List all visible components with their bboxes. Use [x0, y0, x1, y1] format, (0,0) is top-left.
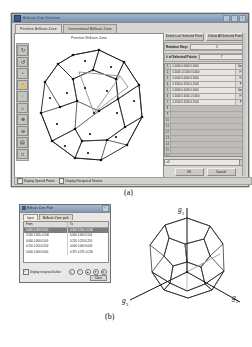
- close-button[interactable]: Close: [90, 275, 107, 282]
- point-group-value: all: [165, 160, 239, 164]
- num-selected-points-label: # of Selected Points:: [166, 55, 197, 59]
- table-row[interactable]: 16: [165, 154, 245, 157]
- add-row-icon[interactable]: +: [69, 269, 76, 276]
- reciprocal-lattice-polyhedron: [128, 196, 246, 321]
- rotation-step-field: Rotation Step: 5: [164, 42, 246, 51]
- brillouin-zone-polyhedron: [27, 41, 162, 175]
- dialog-title-bar: Brillouin Zone Path ×: [20, 205, 110, 213]
- maximize-button[interactable]: □: [231, 15, 238, 22]
- delete-button-row: Delete Last Selected Point Delete All Se…: [164, 33, 246, 41]
- row-index: 16: [165, 154, 171, 157]
- row-index: 8: [165, 106, 171, 111]
- selected-points-table[interactable]: 10.0000 0.0000 0.0000Gam 20.5000 -0.5000…: [164, 63, 246, 157]
- checkbox-label: Display reciprocal lattice: [30, 270, 61, 274]
- path-table[interactable]: From To 0.000 0.000 0.0000.500 0.500 -0.…: [23, 221, 109, 263]
- figure-label-b: (b): [105, 312, 114, 321]
- remove-row-icon[interactable]: −: [77, 269, 84, 276]
- checkbox-label: Display Special Points: [24, 179, 55, 183]
- brillouin-zone-path-dialog: Brillouin Zone Path × Input Brillouin Zo…: [19, 204, 111, 283]
- cell-from: 0.000 0.000 0.000: [24, 250, 68, 255]
- tab-brillouin-zone-path[interactable]: Brillouin Zone path: [39, 214, 73, 220]
- rotate-left-tool-icon[interactable]: ↺: [17, 57, 28, 68]
- tab-conventional-brillouin-zone[interactable]: Conventional Brillouin Zone: [63, 24, 117, 33]
- row-coordinates: 0.2500 0.2500 0.2500: [171, 82, 236, 87]
- column-header-from: From: [24, 222, 68, 227]
- brillouin-zone-viewport[interactable]: Primitive Brillouin Zone: [14, 33, 164, 178]
- window-title-bar: Brillouin Zone Selection _ □ ×: [12, 14, 248, 23]
- window-buttons: _ □ ×: [223, 15, 246, 22]
- brillouin-zone-app-window: Brillouin Zone Selection _ □ × Primitive…: [11, 13, 249, 187]
- row-index: 13: [165, 136, 171, 141]
- row-index: 14: [165, 142, 171, 147]
- dialog-tab-bar: Input Brillouin Zone path: [20, 213, 110, 221]
- table-scrollbar[interactable]: [242, 63, 247, 157]
- rotation-step-label: Rotation Step:: [166, 45, 188, 49]
- plot-title: Primitive Brillouin Zone: [15, 36, 163, 40]
- dialog-button-row: OK Cancel: [164, 168, 246, 177]
- vector-label-g3: g3: [122, 296, 128, 307]
- row-index: 15: [165, 148, 171, 153]
- dialog-icon: [22, 206, 26, 210]
- delete-all-selected-points-button[interactable]: Delete All Selected Points: [206, 33, 246, 41]
- measure-tool-icon[interactable]: ▤: [17, 137, 28, 148]
- checkbox-box[interactable]: [59, 178, 65, 184]
- row-coordinates: 0.5000 0.5000 -0.5000: [171, 94, 236, 99]
- camera-tool-icon[interactable]: ⌂: [17, 103, 28, 114]
- zoom-in-tool-icon[interactable]: ⊕: [17, 114, 28, 125]
- row-coordinates: 0.5000 -0.5000 0.5000: [171, 70, 236, 75]
- row-coordinates: 0.0000 0.0000 0.0000: [171, 64, 236, 69]
- vector-label-g2: g2: [232, 293, 238, 304]
- display-special-points-checkbox[interactable]: ✓ Display Special Points: [17, 178, 55, 184]
- selection-control-panel: Delete Last Selected Point Delete All Se…: [164, 33, 246, 176]
- cancel-button[interactable]: Cancel: [207, 168, 236, 176]
- ok-button[interactable]: OK: [175, 168, 204, 176]
- column-header-to: To: [68, 222, 108, 227]
- cell-to: 0.375 0.375 -0.250: [68, 250, 108, 255]
- table-row[interactable]: 0.000 0.000 0.0000.375 0.375 -0.250: [24, 250, 108, 255]
- app-icon: [14, 15, 21, 22]
- vector-label-g1: g1: [178, 205, 184, 216]
- close-button[interactable]: ×: [239, 15, 246, 22]
- row-index: 9: [165, 112, 171, 117]
- reset-view-tool-icon[interactable]: ◌: [17, 91, 28, 102]
- window-title: Brillouin Zone Selection: [23, 16, 223, 20]
- num-selected-points-value: 7: [199, 54, 244, 60]
- checkbox-box[interactable]: ✓: [17, 178, 23, 184]
- delete-last-selected-point-button[interactable]: Delete Last Selected Point: [164, 33, 204, 41]
- point-group-select[interactable]: all ▼: [164, 159, 246, 167]
- display-reciprocal-lattice-checkbox[interactable]: ✓ Display reciprocal lattice: [23, 269, 61, 275]
- display-reciprocal-vectors-checkbox[interactable]: Display Reciprocal Vectors: [59, 178, 103, 184]
- tab-bar: Primitive Brillouin Zone Conventional Br…: [12, 23, 248, 33]
- tab-primitive-brillouin-zone[interactable]: Primitive Brillouin Zone: [15, 24, 62, 33]
- row-index: 12: [165, 130, 171, 135]
- viewport-toolbar: ↻ ↺ ◔ ✋ ◌ ⌂ ⊕ ⊖ ▤ □: [16, 43, 29, 161]
- status-bar: ✓ Display Special Points Display Recipro…: [14, 177, 252, 185]
- dialog-title: Brillouin Zone Path: [27, 206, 102, 210]
- rotate-3d-tool-icon[interactable]: ↻: [17, 45, 28, 56]
- row-coordinates: 0.0000 0.0000 0.0000: [171, 88, 236, 93]
- save-image-tool-icon[interactable]: □: [17, 149, 28, 160]
- checkbox-label: Display Reciprocal Vectors: [66, 179, 103, 183]
- rotation-step-input[interactable]: 5: [190, 44, 244, 50]
- num-selected-points-field: # of Selected Points: 7: [164, 53, 246, 62]
- zoom-out-tool-icon[interactable]: ⊖: [17, 126, 28, 137]
- row-coordinates: 0.2500 0.2500 0.2500: [171, 100, 236, 105]
- close-icon[interactable]: ×: [102, 205, 109, 212]
- checkbox-box[interactable]: ✓: [23, 269, 29, 275]
- row-coordinates: 0.0000 0.0000 0.5000: [171, 76, 236, 81]
- row-index: 10: [165, 118, 171, 123]
- orbit-tool-icon[interactable]: ◔: [17, 68, 28, 79]
- row-index: 11: [165, 124, 171, 129]
- hand-pan-tool-icon[interactable]: ✋: [17, 80, 28, 91]
- tab-input[interactable]: Input: [23, 214, 38, 220]
- minimize-button[interactable]: _: [223, 15, 230, 22]
